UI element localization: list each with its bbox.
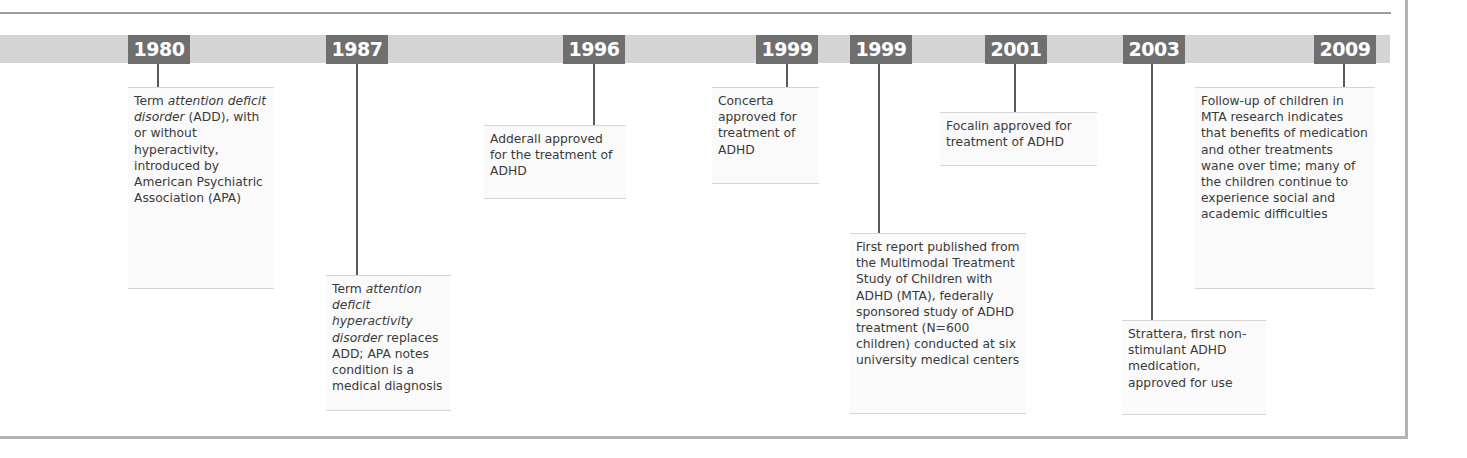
event-box-2003: Strattera, first non-stimulant ADHD medi… — [1122, 320, 1266, 415]
year-label-1980: 1980 — [128, 35, 190, 64]
event-box-2009: Follow-up of children in MTA research in… — [1195, 87, 1375, 289]
year-label-2009: 2009 — [1314, 35, 1376, 64]
year-label-1999-mta: 1999 — [850, 35, 912, 64]
frame-top-rule — [0, 12, 1391, 14]
timeline-stem-1980 — [157, 64, 159, 87]
year-label-2003: 2003 — [1123, 35, 1185, 64]
timeline-stem-1987 — [356, 64, 358, 275]
year-label-1996: 1996 — [563, 35, 625, 64]
year-label-1999-concerta: 1999 — [756, 35, 818, 64]
event-box-1980: Term attention deficit disorder (ADD), w… — [128, 87, 274, 289]
frame-right-border — [1405, 0, 1408, 439]
frame-bottom-border — [0, 436, 1408, 439]
event-text: (ADD), with or without hyperactivity, in… — [134, 110, 263, 205]
timeline-stem-1999-concerta — [786, 64, 788, 87]
event-box-1999-mta: First report published from the Multimod… — [850, 233, 1026, 414]
timeline-stem-2003 — [1151, 64, 1153, 320]
event-text: Term — [134, 94, 168, 108]
event-text: Term — [332, 282, 366, 296]
year-label-1987: 1987 — [326, 35, 388, 64]
event-box-1999-concerta: Concerta approved for treatment of ADHD — [712, 87, 819, 184]
timeline-stem-1999-mta — [878, 64, 880, 233]
event-box-1987: Term attention deficit hyperactivity dis… — [326, 275, 451, 411]
timeline-stem-1996 — [593, 64, 595, 125]
event-box-1996: Adderall approved for the treatment of A… — [484, 125, 626, 199]
year-label-2001: 2001 — [985, 35, 1047, 64]
timeline-stem-2001 — [1014, 64, 1016, 112]
event-box-2001: Focalin approved for treatment of ADHD — [940, 112, 1097, 166]
timeline-stem-2009 — [1343, 64, 1345, 87]
